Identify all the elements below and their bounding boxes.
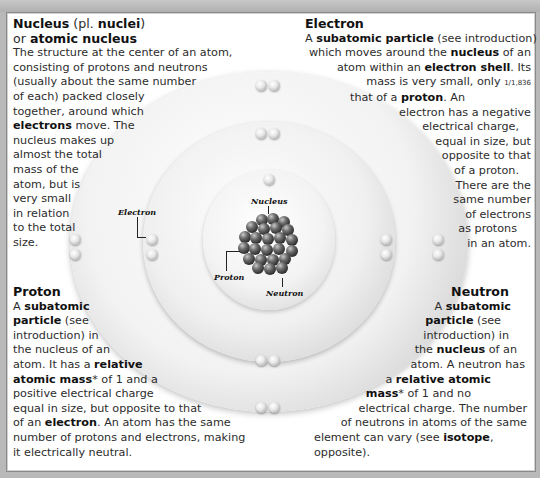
top-edge: [0, 0, 540, 12]
neutron-description: Neutron A subatomic particle (see introd…: [316, 285, 531, 460]
nucleus-cluster: [236, 212, 302, 274]
proton-leader-line: [226, 251, 227, 271]
electron-icon: [269, 402, 280, 413]
electron-icon: [256, 128, 267, 139]
nucleus-description: Nucleus (pl. nuclei) or atomic nucleus T…: [13, 17, 232, 251]
electron-icon: [256, 80, 267, 91]
neutron-label: Neutron: [266, 288, 303, 298]
proton-description: Proton A subatomic particle (see introdu…: [13, 285, 245, 460]
proton-label: Proton: [214, 272, 244, 282]
electron-icon: [256, 402, 267, 413]
electron-icon: [264, 174, 275, 185]
nucleus-leader-line: [268, 206, 269, 214]
electron-icon: [269, 128, 280, 139]
electron-icon: [269, 80, 280, 91]
electron-icon: [147, 249, 158, 260]
electron-icon: [269, 355, 280, 366]
electron-description: Electron A subatomic particle (see intro…: [305, 17, 531, 252]
electron-icon: [256, 355, 267, 366]
electron-icon: [70, 249, 81, 260]
neutron-leader-line: [282, 278, 283, 287]
nucleus-label: Nucleus: [251, 196, 287, 206]
